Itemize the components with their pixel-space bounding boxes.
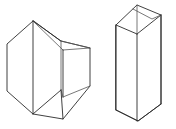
crystal-figure-canvas: Crystal habit line drawings Bipyramidal … (0, 0, 176, 129)
right-crystal-body-fill (116, 5, 161, 121)
crystal-drawing-svg (0, 0, 176, 129)
right-crystal (116, 5, 161, 121)
left-crystal (7, 21, 90, 119)
